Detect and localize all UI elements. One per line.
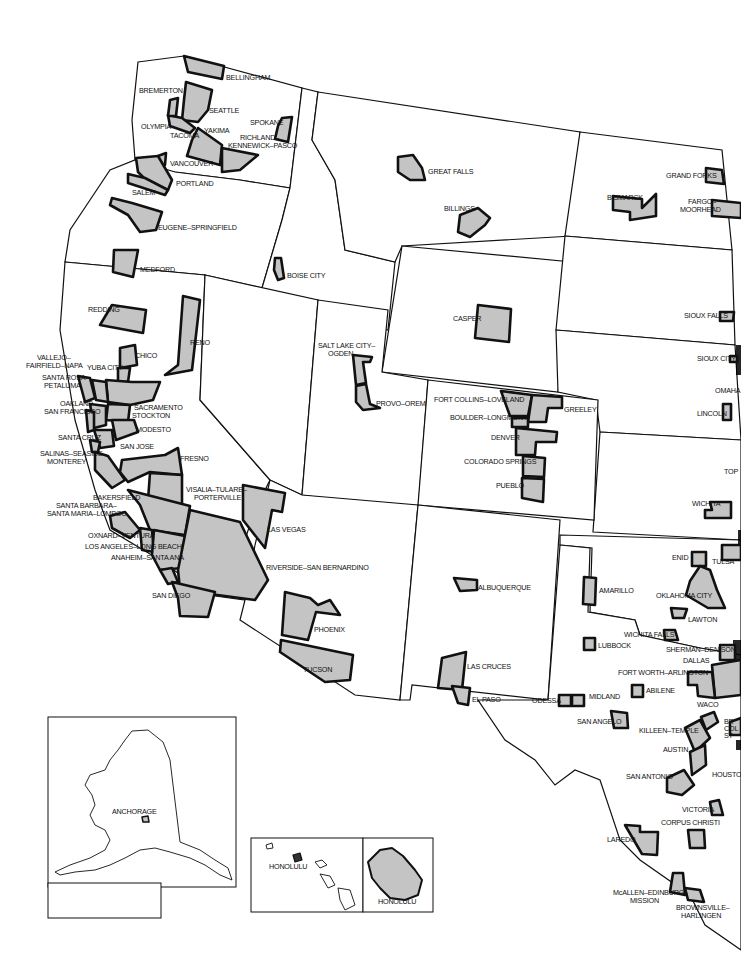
label-stockton: STOCKTON xyxy=(132,411,170,420)
label-wichita: WICHITA xyxy=(692,499,721,508)
label-great-falls: GREAT FALLS xyxy=(428,167,474,176)
label-colorado-springs: COLORADO SPRINGS xyxy=(464,457,537,466)
label-station: ST xyxy=(724,731,734,740)
inset-alaska xyxy=(48,717,236,918)
label-dallas: DALLAS xyxy=(683,656,710,665)
label-san-jose: SAN JOSE xyxy=(120,442,154,451)
label-el-paso: EL PASO xyxy=(472,695,501,704)
metro-sacramento xyxy=(106,380,160,405)
label-midland: MIDLAND xyxy=(589,692,620,701)
label-greeley: GREELEY xyxy=(564,405,597,414)
metro-honolulu-small xyxy=(293,853,302,862)
label-fort-collins-loveland: FORT COLLINS–LOVELAND xyxy=(434,395,524,404)
label-abilene: ABILENE xyxy=(646,686,675,695)
label-redding: REDDING xyxy=(88,305,120,314)
label-bismarck: BISMARCK xyxy=(607,193,643,202)
label-provo-orem: PROVO–OREM xyxy=(376,399,426,408)
metro-dallas xyxy=(712,660,741,698)
state-north-dakota xyxy=(565,132,732,250)
label-grand-forks: GRAND FORKS xyxy=(666,171,717,180)
label-spokane: SPOKANE xyxy=(250,118,284,127)
label-moorhead: MOORHEAD xyxy=(680,205,721,214)
metro-anchorage xyxy=(142,816,149,822)
label-houston: HOUSTO xyxy=(712,770,741,779)
label-modesto: MODESTO xyxy=(136,425,171,434)
label-salem: SALEM xyxy=(132,188,156,197)
label-fort-worth-arlington: FORT WORTH–ARLINGTON xyxy=(618,668,708,677)
label-corpus-christi: CORPUS CHRISTI xyxy=(661,818,720,827)
metro-corpus-christi xyxy=(688,830,705,848)
label-yuba-city: YUBA CITY xyxy=(87,363,123,372)
label-san-diego: SAN DIEGO xyxy=(152,591,191,600)
label-san-antonio: SAN ANTONIO xyxy=(626,772,673,781)
metro-lubbock xyxy=(584,638,595,650)
label-odessa: ODESSA xyxy=(532,696,561,705)
label-fairfield-napa: FAIRFIELD–NAPA xyxy=(26,361,83,370)
metro-casper xyxy=(475,305,511,342)
label-portland: PORTLAND xyxy=(176,179,213,188)
label-fresno: FRESNO xyxy=(180,454,209,463)
label-oxnard-ventura: OXNARD–VENTURA xyxy=(88,531,155,540)
metro-area-map: BELLINGHAM BREMERTON SEATTLE SPOKANE OLY… xyxy=(0,0,741,975)
label-enid: ENID xyxy=(672,553,688,562)
label-anaheim-santa-ana: ANAHEIM–SANTA ANA xyxy=(111,553,184,562)
metro-midland xyxy=(572,695,584,706)
state-south-dakota xyxy=(556,236,735,345)
label-petaluma: PETALUMA xyxy=(44,381,81,390)
label-topeka: TOP xyxy=(724,467,738,476)
label-denver: DENVER xyxy=(491,433,520,442)
label-riverside-san-bernardino: RIVERSIDE–SAN BERNARDINO xyxy=(266,563,369,572)
label-casper: CASPER xyxy=(453,314,481,323)
label-tulsa: TULSA xyxy=(712,557,735,566)
label-seattle: SEATTLE xyxy=(209,106,239,115)
label-chico: CHICO xyxy=(135,351,158,360)
label-kennewick-pasco: KENNEWICK–PASCO xyxy=(228,141,298,150)
label-harlingen: HARLINGEN xyxy=(681,911,721,920)
metro-pueblo xyxy=(522,478,544,502)
label-tacoma: TACOMA xyxy=(170,131,199,140)
label-honolulu-islands: HONOLULU xyxy=(269,862,307,871)
metro-amarillo xyxy=(583,577,596,605)
label-las-vegas: LAS VEGAS xyxy=(267,525,306,534)
state-kansas xyxy=(593,432,741,540)
label-omaha: OMAHA xyxy=(715,386,741,395)
label-medford: MEDFORD xyxy=(140,265,175,274)
label-bremerton: BREMERTON xyxy=(139,86,183,95)
label-los-angeles-long-beach: LOS ANGELES–LONG BEACH xyxy=(85,542,182,551)
label-eugene-springfield: EUGENE–SPRINGFIELD xyxy=(158,223,237,232)
label-yakima: YAKIMA xyxy=(204,126,230,135)
label-santa-cruz: SANTA CRUZ xyxy=(58,433,102,442)
label-billings: BILLINGS xyxy=(444,204,475,213)
label-mission: MISSION xyxy=(630,896,659,905)
metro-bremerton xyxy=(168,98,178,116)
label-pueblo: PUEBLO xyxy=(496,481,525,490)
label-olympia: OLYMPIA xyxy=(141,122,171,131)
label-vancouver: VANCOUVER xyxy=(170,159,213,168)
label-killeen-temple: KILLEEN–TEMPLE xyxy=(639,726,699,735)
label-san-francisco: SAN FRANCISCO xyxy=(44,407,101,416)
label-sioux-city: SIOUX CITY xyxy=(697,354,736,363)
label-lincoln: LINCOLN xyxy=(697,409,727,418)
label-austin: AUSTIN xyxy=(663,745,688,754)
label-boulder-longmont: BOULDER–LONGMONT xyxy=(450,413,528,422)
metro-las-cruces xyxy=(438,652,466,690)
label-las-cruces: LAS CRUCES xyxy=(467,662,511,671)
state-montana xyxy=(312,92,580,262)
label-waco: WACO xyxy=(697,700,719,709)
label-san-angelo: SAN ANGELO xyxy=(577,717,622,726)
label-tucson: TUCSON xyxy=(303,665,332,674)
metro-abilene xyxy=(632,685,643,697)
label-sherman-denison: SHERMAN–DENISON xyxy=(666,645,736,654)
metro-odessa xyxy=(559,695,571,706)
metro-lawton xyxy=(671,608,687,618)
label-wichita-falls: WICHITA FALLS xyxy=(624,630,675,639)
metro-medford xyxy=(113,250,138,277)
label-amarillo: AMARILLO xyxy=(599,586,634,595)
label-sioux-falls: SIOUX FALLS xyxy=(684,311,728,320)
label-lawton: LAWTON xyxy=(688,615,717,624)
label-bellingham: BELLINGHAM xyxy=(226,73,271,82)
metro-enid xyxy=(692,552,706,566)
label-laredo: LAREDO xyxy=(607,835,636,844)
label-porterville: PORTERVILLE xyxy=(194,493,241,502)
label-santa-maria-lompoc: SANTA MARIA–LOMPOC xyxy=(47,509,126,518)
